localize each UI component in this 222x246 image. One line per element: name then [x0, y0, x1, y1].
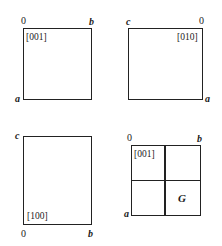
- axis-c-label: c: [15, 131, 19, 141]
- axis-b-label: b: [89, 17, 94, 27]
- grid-divider-horizontal: [131, 180, 201, 182]
- direction-label: [100]: [27, 211, 48, 221]
- axis-a-label: a: [15, 94, 20, 104]
- axis-a-label: a: [205, 94, 210, 104]
- origin-label: 0: [199, 16, 204, 26]
- axis-a-label: a: [124, 209, 129, 219]
- axis-b-label: b: [88, 229, 93, 239]
- origin-label: 0: [127, 133, 132, 143]
- direction-label: [010]: [177, 32, 198, 42]
- direction-label: [001]: [26, 32, 47, 42]
- cell-label-g: G: [178, 193, 186, 203]
- origin-label: 0: [21, 16, 26, 26]
- axis-c-label: c: [126, 17, 130, 27]
- origin-label: 0: [21, 229, 26, 239]
- direction-label: [001]: [134, 149, 155, 159]
- axis-b-label: b: [197, 134, 202, 144]
